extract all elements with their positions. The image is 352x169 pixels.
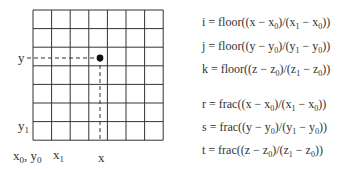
equation-i: i = floor((x − x0)/(x1 − x0))	[202, 16, 330, 31]
label-x1: x1	[53, 148, 64, 164]
label-y: y	[18, 51, 25, 64]
sample-point	[97, 55, 104, 62]
equation-s: s = frac((y − y0)/(y1 − y0))	[202, 121, 327, 136]
equation-j: j = floor((y − y0)/(y1 − y0))	[202, 40, 330, 55]
label-x0-y0: x0, y0	[13, 149, 42, 165]
label-x: x	[98, 151, 105, 164]
equation-r: r = frac((x − x0)/(x1 − x0))	[202, 98, 326, 113]
equation-t: t = frac((z − z0)/(z1 − z0))	[202, 144, 323, 159]
label-y1: y1	[18, 119, 29, 135]
equation-k: k = floor((z − z0)/(z1 − z0))	[202, 63, 330, 78]
